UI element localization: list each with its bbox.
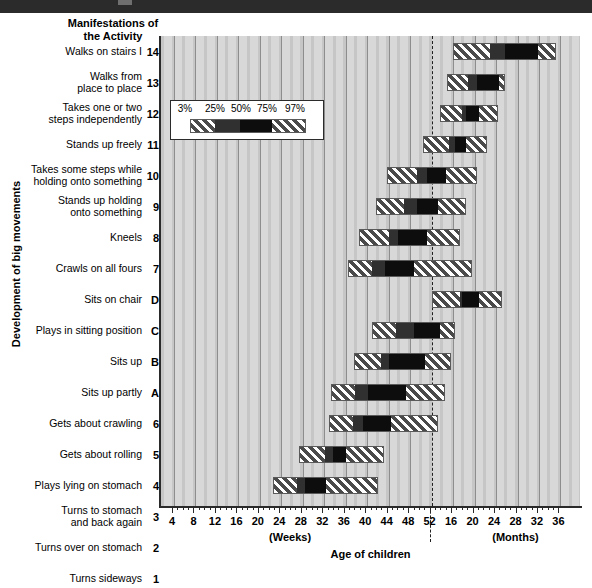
percentile-bar-C (372, 322, 456, 339)
segment-p3-p25 (454, 44, 490, 59)
segment-p25-p50 (353, 416, 364, 431)
segment-p3-p25 (388, 168, 417, 183)
x-tick (322, 506, 323, 513)
segment-p50-p75 (368, 385, 406, 400)
gridline (518, 36, 519, 506)
category-label-line: Gets about rolling (60, 449, 142, 461)
category-code: 6 (146, 418, 159, 430)
category-label-text: Sits up partly (81, 387, 142, 399)
category-code: 12 (146, 108, 159, 120)
segment-p25-p50 (417, 168, 428, 183)
segment-p25-p50 (372, 261, 385, 276)
x-minor-tick (354, 506, 355, 510)
segment-p50-p75 (462, 292, 479, 307)
x-minor-tick (499, 506, 500, 510)
percentile-bar-13 (447, 74, 505, 91)
segment-p75-p97 (440, 323, 455, 338)
x-minor-tick (317, 506, 318, 510)
x-minor-tick (526, 506, 527, 510)
segment-p3-p25 (441, 106, 462, 121)
category-label-line: holding onto something (31, 176, 142, 188)
segment-p50-p75 (398, 230, 427, 245)
category-label-line: Stands up holding (58, 195, 142, 207)
segment-p25-p50 (325, 447, 333, 462)
category-label-11: Stands up freely11 (14, 129, 159, 160)
category-code: 1 (146, 573, 159, 585)
x-minor-tick (446, 506, 447, 510)
category-label-1: Turns sideways1 (14, 563, 159, 588)
segment-p3-p25 (377, 199, 404, 214)
legend-swatch-bar (190, 119, 306, 133)
category-label-text: Plays lying on stomach (35, 480, 142, 492)
x-minor-tick (220, 506, 221, 510)
category-label-line: place to place (77, 83, 142, 95)
segment-p75-p97 (425, 354, 450, 369)
percentile-bar-14 (453, 43, 556, 60)
x-tick (365, 506, 366, 513)
category-label-text: Gets about rolling (60, 449, 142, 461)
x-minor-tick (419, 506, 420, 510)
segment-p50-p75 (333, 447, 346, 462)
x-minor-tick (295, 506, 296, 510)
segment-p50-p75 (385, 261, 415, 276)
segment-p75-p97 (427, 230, 459, 245)
segment-p25-p50 (468, 75, 476, 90)
segment-p50-p75 (466, 106, 478, 121)
category-label-text: Walks fromplace to place (77, 71, 142, 94)
legend-seg-25-50 (215, 120, 240, 132)
x-tick (430, 506, 431, 513)
chart-title-line1: Manifestations of (44, 17, 182, 30)
segment-p75-p97 (499, 75, 503, 90)
category-label-column: Walks on stairs I14Walks fromplace to pl… (14, 36, 159, 506)
segment-p25-p50 (490, 44, 505, 59)
segment-p75-p97 (406, 385, 444, 400)
x-minor-tick (392, 506, 393, 510)
category-label-line: Sits up (110, 356, 142, 368)
x-minor-tick (376, 506, 377, 510)
segment-p25-p50 (355, 385, 368, 400)
percentile-bar-D (432, 291, 503, 308)
x-minor-tick (231, 506, 232, 510)
legend-seg-75-97 (272, 120, 305, 132)
x-tick (279, 506, 280, 513)
segment-p3-p25 (274, 478, 297, 493)
category-label-line: Gets about crawling (49, 418, 142, 430)
x-tick-label: 36 (543, 515, 573, 527)
x-minor-tick (247, 506, 248, 510)
category-label-line: Sits up partly (81, 387, 142, 399)
legend: 3%25%50%75%97% (170, 100, 324, 140)
category-label-text: Plays in sitting position (36, 325, 142, 337)
category-label-text: Takes some steps whileholding onto somet… (31, 164, 142, 187)
category-code: D (146, 294, 159, 306)
x-tick (172, 506, 173, 513)
category-label-line: Takes some steps while (31, 164, 142, 176)
category-label-10: Takes some steps whileholding onto somet… (14, 160, 159, 191)
category-label-line: Stands up freely (66, 139, 142, 151)
x-axis-unit-months: (Months) (476, 531, 556, 543)
x-minor-tick (253, 506, 254, 510)
segment-p50-p75 (455, 137, 465, 152)
segment-p75-p97 (438, 199, 465, 214)
percentile-bar-11 (423, 136, 487, 153)
x-minor-tick (338, 506, 339, 510)
category-code: 11 (146, 139, 159, 151)
x-tick (408, 506, 409, 513)
x-tick (387, 506, 388, 513)
category-label-line: Turns to stomach (61, 505, 142, 517)
segment-p3-p25 (360, 230, 389, 245)
x-minor-tick (505, 506, 506, 510)
x-tick (215, 506, 216, 513)
legend-label-25: 25% (201, 103, 229, 114)
percentile-bar-5 (299, 446, 385, 463)
x-minor-tick (462, 506, 463, 510)
category-code: 5 (146, 449, 159, 461)
segment-p75-p97 (414, 261, 471, 276)
category-code: 13 (146, 77, 159, 89)
category-code: 9 (146, 201, 159, 213)
percentile-bar-A (331, 384, 445, 401)
segment-p3-p25 (448, 75, 469, 90)
legend-seg-3-25 (191, 120, 215, 132)
x-tick (516, 506, 517, 513)
category-label-line: Takes one or two (49, 102, 142, 114)
segment-p3-p25 (424, 137, 449, 152)
